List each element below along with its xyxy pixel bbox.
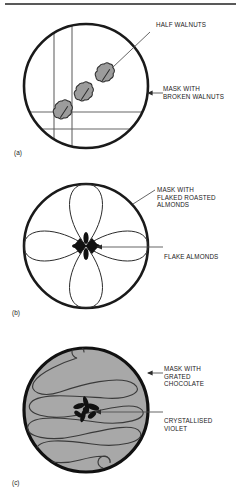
label-mask-with-flaked-roasted-almonds: MASK WITH FLAKED ROASTED ALMONDS <box>157 186 216 209</box>
figure-root: (a) HALF WALNUTS MASK WITH BROKEN WALNUT… <box>0 0 239 498</box>
top-rule <box>5 3 236 5</box>
label-half-walnuts: HALF WALNUTS <box>156 21 206 29</box>
label-mask-with-broken-walnuts: MASK WITH BROKEN WALNUTS <box>163 85 224 100</box>
arrowhead-icon <box>147 371 153 376</box>
panel-c-drawing <box>0 330 239 498</box>
flake-almond-centre <box>72 232 100 260</box>
panel-letter-c: (c) <box>12 479 19 486</box>
half-walnut-shapes <box>49 59 118 123</box>
label-mask-with-grated-chocolate: MASK WITH GRATED CHOCOLATE <box>164 365 204 388</box>
label-flake-almonds: FLAKE ALMONDS <box>164 253 218 261</box>
panel-letter-b: (b) <box>12 309 20 316</box>
label-crystallised-violet: CRYSTALLISED VIOLET <box>164 417 212 432</box>
panel-letter-a: (a) <box>14 149 22 156</box>
leader-mask-flaked-almonds <box>133 190 155 204</box>
panel-c: (c) <box>0 330 239 498</box>
